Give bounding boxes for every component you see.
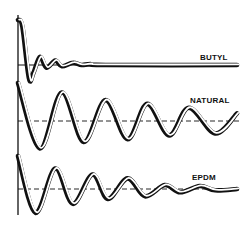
series-layer xyxy=(18,19,239,213)
damped-oscillation-chart: BUTYL NATURAL EPDM xyxy=(0,0,251,225)
series-label-butyl: BUTYL xyxy=(200,53,228,62)
series-label-natural: NATURAL xyxy=(190,96,229,105)
curve-core-epdm xyxy=(19,155,238,212)
series-natural xyxy=(18,82,239,148)
curve-outline-butyl xyxy=(18,20,237,81)
curve-outline-epdm xyxy=(18,156,237,213)
series-epdm xyxy=(18,155,239,213)
series-label-epdm: EPDM xyxy=(192,173,216,182)
series-butyl xyxy=(18,19,239,81)
curve-core-butyl xyxy=(19,19,238,80)
